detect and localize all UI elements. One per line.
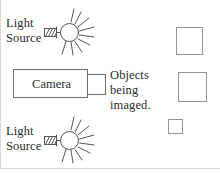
light-source-bottom-icon <box>44 114 100 170</box>
object-square-top <box>176 27 203 55</box>
object-square-middle <box>178 72 207 102</box>
camera-label: Camera <box>14 70 89 99</box>
light-source-bottom-label: Light Source <box>6 124 41 153</box>
light-source-top-label: Light Source <box>6 16 41 45</box>
lamp-base-hatch <box>45 135 62 146</box>
frame-bottom-rule <box>0 168 220 169</box>
object-square-bottom <box>168 119 183 134</box>
diagram-canvas: Light Source <box>0 0 220 173</box>
frame-left-rule <box>0 0 1 169</box>
light-source-top-icon <box>44 6 100 62</box>
lamp-base-hatch <box>45 27 62 38</box>
objects-being-imaged-label: Objects being imaged. <box>110 68 151 113</box>
camera-lens <box>87 74 106 95</box>
camera-body: Camera <box>13 69 88 98</box>
